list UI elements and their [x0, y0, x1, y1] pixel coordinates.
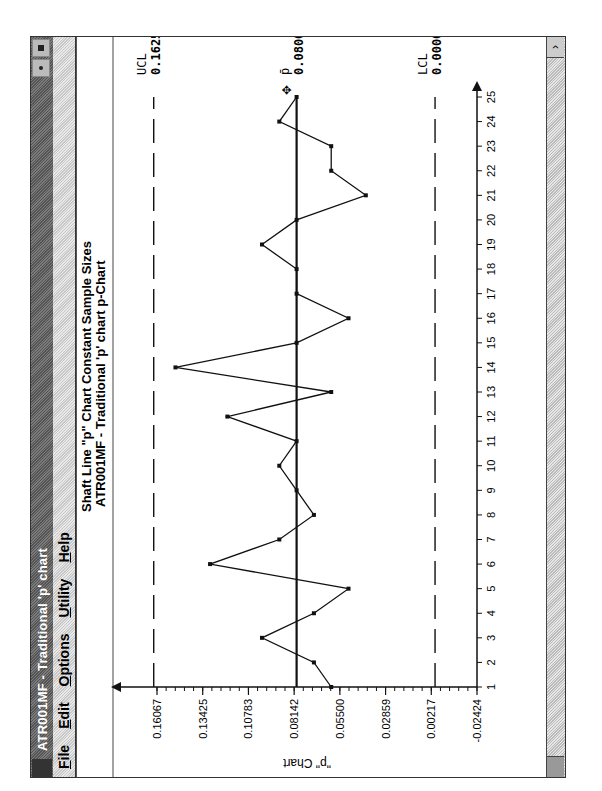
- data-point: [173, 365, 177, 369]
- data-point: [295, 218, 299, 222]
- center-value: 0.08000: [292, 37, 306, 75]
- data-point: [295, 95, 299, 99]
- data-point: [329, 685, 333, 689]
- x-tick-label: 1: [485, 684, 497, 690]
- data-point: [312, 660, 316, 664]
- x-tick-label: 20: [485, 214, 497, 226]
- chart-title: Shaft Line "p" Chart Constant Sample Siz…: [79, 241, 94, 512]
- x-tick-label: 16: [485, 312, 497, 324]
- x-tick-label: 3: [485, 635, 497, 641]
- x-tick-label: 2: [485, 659, 497, 665]
- x-tick-label: 4: [485, 610, 497, 616]
- lcl-value: 0.00000: [430, 37, 444, 75]
- x-tick-label: 17: [485, 288, 497, 300]
- scroll-thumb[interactable]: [547, 756, 564, 777]
- system-menu-icon[interactable]: [32, 759, 52, 777]
- p-chart: Shaft Line "p" Chart Constant Sample Siz…: [77, 37, 547, 777]
- x-tick-label: 19: [485, 238, 497, 250]
- menu-bar: File Edit Options Utility Help: [53, 37, 76, 777]
- data-point: [208, 562, 212, 566]
- y-tick-label: 0.10783: [242, 699, 254, 739]
- x-tick-label: 18: [485, 263, 497, 275]
- x-tick-label: 10: [485, 460, 497, 472]
- data-point: [295, 439, 299, 443]
- data-point: [225, 415, 229, 419]
- x-tick-label: 21: [485, 189, 497, 201]
- y-tick-label: 0.05500: [334, 699, 346, 739]
- data-point: [329, 390, 333, 394]
- y-tick-label: 0.08142: [288, 699, 300, 739]
- chart-area: Shaft Line "p" Chart Constant Sample Siz…: [76, 37, 547, 777]
- x-tick-label: 13: [485, 386, 497, 398]
- x-tick-label: 25: [485, 91, 497, 103]
- data-point: [329, 144, 333, 148]
- y-tick-label: 0.16067: [151, 699, 163, 739]
- ucl-value: 0.16256: [149, 37, 163, 75]
- data-point: [295, 488, 299, 492]
- x-tick-label: 24: [485, 115, 497, 127]
- y-tick-label: 0.02859: [380, 699, 392, 739]
- data-series-line: [175, 97, 365, 687]
- data-point: [347, 316, 351, 320]
- y-tick-label: 0.00217: [425, 699, 437, 739]
- window-title: ATR001MF - Traditional 'p' chart: [35, 548, 50, 751]
- y-tick-label: 0.13425: [197, 699, 209, 739]
- data-point: [312, 611, 316, 615]
- x-tick-label: 14: [485, 361, 497, 373]
- data-point: [347, 587, 351, 591]
- menu-file[interactable]: File: [56, 737, 72, 777]
- cursor-icon: ✥: [280, 85, 294, 95]
- x-tick-label: 7: [485, 536, 497, 542]
- scroll-right-arrow[interactable]: ›: [547, 37, 564, 58]
- ucl-label: UCL: [135, 53, 149, 75]
- maximize-button[interactable]: [32, 39, 50, 57]
- menu-options[interactable]: Options: [56, 626, 72, 695]
- data-point: [364, 193, 368, 197]
- x-axis-arrow-icon: [472, 81, 482, 91]
- y-tick-label: -0.02424: [471, 699, 483, 742]
- chart-subtitle: ATR001MF - Traditional 'p' chart p-Chart: [93, 260, 108, 507]
- chart-window: ATR001MF - Traditional 'p' chart File Ed…: [30, 36, 566, 778]
- y-axis-label: "p" Chart: [282, 756, 331, 770]
- lcl-label: LCL: [416, 53, 430, 75]
- x-tick-label: 11: [485, 435, 497, 446]
- x-tick-label: 5: [485, 586, 497, 592]
- center-label: p̄: [278, 68, 292, 75]
- plot-group: 0.160670.134250.107830.081420.055000.028…: [111, 37, 497, 770]
- x-tick-label: 12: [485, 410, 497, 422]
- menu-help[interactable]: Help: [56, 524, 72, 570]
- x-tick-label: 23: [485, 140, 497, 152]
- x-tick-label: 6: [485, 561, 497, 567]
- x-tick-label: 8: [485, 512, 497, 518]
- horizontal-scrollbar[interactable]: ›: [546, 37, 565, 777]
- data-point: [295, 267, 299, 271]
- data-point: [277, 464, 281, 468]
- data-point: [295, 292, 299, 296]
- data-point: [295, 341, 299, 345]
- menu-edit[interactable]: Edit: [56, 694, 72, 736]
- minimize-button[interactable]: [32, 59, 50, 77]
- x-tick-label: 9: [485, 487, 497, 493]
- data-point: [260, 243, 264, 247]
- menu-utility[interactable]: Utility: [56, 571, 72, 626]
- data-point: [329, 169, 333, 173]
- title-bar: ATR001MF - Traditional 'p' chart: [31, 37, 53, 777]
- data-point: [260, 636, 264, 640]
- x-tick-label: 15: [485, 337, 497, 349]
- data-point: [277, 538, 281, 542]
- x-tick-label: 22: [485, 165, 497, 177]
- data-point: [277, 120, 281, 124]
- data-point: [312, 513, 316, 517]
